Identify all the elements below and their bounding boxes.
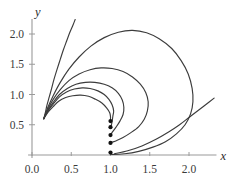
x-tick-label: 1.0 — [103, 163, 118, 175]
x-tick-label: 0.5 — [64, 163, 79, 175]
trajectory-curve — [44, 68, 148, 143]
trajectory-curve — [114, 98, 214, 154]
x-tick-label: 0.0 — [25, 163, 40, 175]
y-tick-label: 1.5 — [10, 58, 25, 70]
y-tick-label: 2.0 — [10, 28, 25, 40]
endpoint-dot — [108, 133, 112, 137]
trajectory-curves — [44, 19, 214, 154]
endpoint-dot — [108, 150, 112, 154]
endpoint-dot — [108, 119, 112, 123]
x-tick-label: 1.5 — [143, 163, 158, 175]
x-tick-label: 2.0 — [182, 163, 197, 175]
y-axis-label: y — [33, 5, 41, 19]
plot-canvas: 0.00.51.01.52.0 0.51.01.52.0 x y — [0, 0, 238, 190]
y-axis-ticks: 0.51.01.52.0 — [10, 28, 35, 131]
x-axis-label: x — [219, 149, 226, 163]
endpoint-dot — [108, 141, 112, 145]
trajectory-curve — [44, 19, 75, 118]
phase-portrait-figure: 0.00.51.01.52.0 0.51.01.52.0 x y — [0, 0, 238, 190]
y-tick-label: 0.5 — [10, 119, 25, 131]
y-tick-label: 1.0 — [10, 89, 25, 101]
endpoint-dot — [108, 125, 112, 129]
